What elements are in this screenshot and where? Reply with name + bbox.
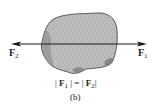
subfigure-label: (b) <box>70 92 81 102</box>
rock-body <box>41 13 117 74</box>
equation-subscript: 1 <box>65 82 69 90</box>
abs-bar: | <box>55 78 57 88</box>
force-label-f2: F2 <box>9 47 19 60</box>
force-subscript: 2 <box>15 52 19 60</box>
abs-bar: | <box>95 78 97 88</box>
equation-equals: | = | <box>70 78 83 88</box>
force-subscript: 1 <box>144 52 148 60</box>
force-label-f1: F1 <box>138 47 148 60</box>
magnitude-equation: | F1 | = | F2| <box>55 78 97 90</box>
